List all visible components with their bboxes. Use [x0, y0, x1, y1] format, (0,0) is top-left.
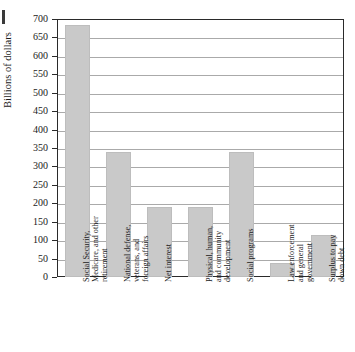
- bar-chart-figure: Billions of dollars 05010015020025030035…: [0, 0, 355, 352]
- y-axis-tick-label: 400: [8, 125, 48, 135]
- y-axis-tick-label: 150: [8, 217, 48, 227]
- y-axis-tick-label: 500: [8, 88, 48, 98]
- x-axis-tick-label: Law enforcement and general government: [287, 216, 315, 282]
- y-axis-tick: [52, 277, 57, 278]
- x-axis-tick-label: Social programs: [246, 216, 255, 282]
- y-axis-tick-label: 250: [8, 180, 48, 190]
- x-axis-tick-label: Social Security, Medicare, and other ret…: [82, 216, 110, 282]
- y-axis-tick-label: 200: [8, 198, 48, 208]
- y-axis-tick-label: 650: [8, 32, 48, 42]
- y-axis-tick-label: 600: [8, 51, 48, 61]
- x-axis-tick-label: Physical, human, and community developme…: [205, 216, 233, 282]
- y-axis-tick-label: 700: [8, 14, 48, 24]
- y-axis-tick-label: 0: [8, 272, 48, 282]
- y-axis-tick-label: 450: [8, 106, 48, 116]
- x-axis-tick-label: Net interest: [164, 216, 173, 282]
- x-axis-tick-label: Surplus to pay down debt: [328, 216, 346, 282]
- x-axis-tick-label: National defense, veterans, and foreign …: [123, 216, 151, 282]
- y-axis-tick-label: 100: [8, 235, 48, 245]
- y-axis-tick-label: 50: [8, 254, 48, 264]
- y-axis-tick-label: 300: [8, 161, 48, 171]
- y-axis-tick-label: 550: [8, 69, 48, 79]
- y-axis-tick-label: 350: [8, 143, 48, 153]
